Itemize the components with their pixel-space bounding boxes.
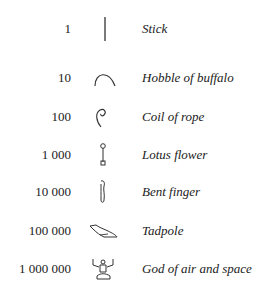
table-row: 100 Coil of rope bbox=[0, 105, 261, 129]
table-row: 100 000 Tadpole bbox=[0, 219, 261, 243]
glyph-name: God of air and space bbox=[142, 257, 252, 281]
numeral-value: 100 000 bbox=[29, 219, 71, 243]
lotus-flower-glyph-icon bbox=[88, 143, 118, 167]
numeral-value: 1 000 bbox=[42, 143, 71, 167]
numeral-value: 1 bbox=[65, 17, 72, 41]
glyph-name: Lotus flower bbox=[142, 143, 207, 167]
glyph-name: Stick bbox=[142, 17, 167, 41]
glyph-name: Bent finger bbox=[142, 180, 200, 204]
coil-of-rope-glyph-icon bbox=[88, 105, 118, 129]
glyph-name: Tadpole bbox=[142, 219, 183, 243]
table-row: 10 Hobble of buffalo bbox=[0, 66, 261, 90]
numeral-value: 1 000 000 bbox=[19, 257, 71, 281]
hobble-glyph-icon bbox=[88, 66, 118, 90]
stick-glyph-icon bbox=[88, 17, 118, 41]
table-row: 1 Stick bbox=[0, 17, 261, 41]
table-row: 1 000 Lotus flower bbox=[0, 143, 261, 167]
numeral-value: 100 bbox=[52, 105, 72, 129]
table-row: 10 000 Bent finger bbox=[0, 180, 261, 204]
tadpole-glyph-icon bbox=[88, 219, 118, 243]
glyph-name: Coil of rope bbox=[142, 105, 204, 129]
god-of-air-glyph-icon bbox=[88, 257, 118, 281]
numeral-value: 10 bbox=[58, 66, 71, 90]
numeral-value: 10 000 bbox=[35, 180, 71, 204]
glyph-name: Hobble of buffalo bbox=[142, 66, 234, 90]
bent-finger-glyph-icon bbox=[88, 180, 118, 204]
table-row: 1 000 000 God of air and space bbox=[0, 257, 261, 281]
